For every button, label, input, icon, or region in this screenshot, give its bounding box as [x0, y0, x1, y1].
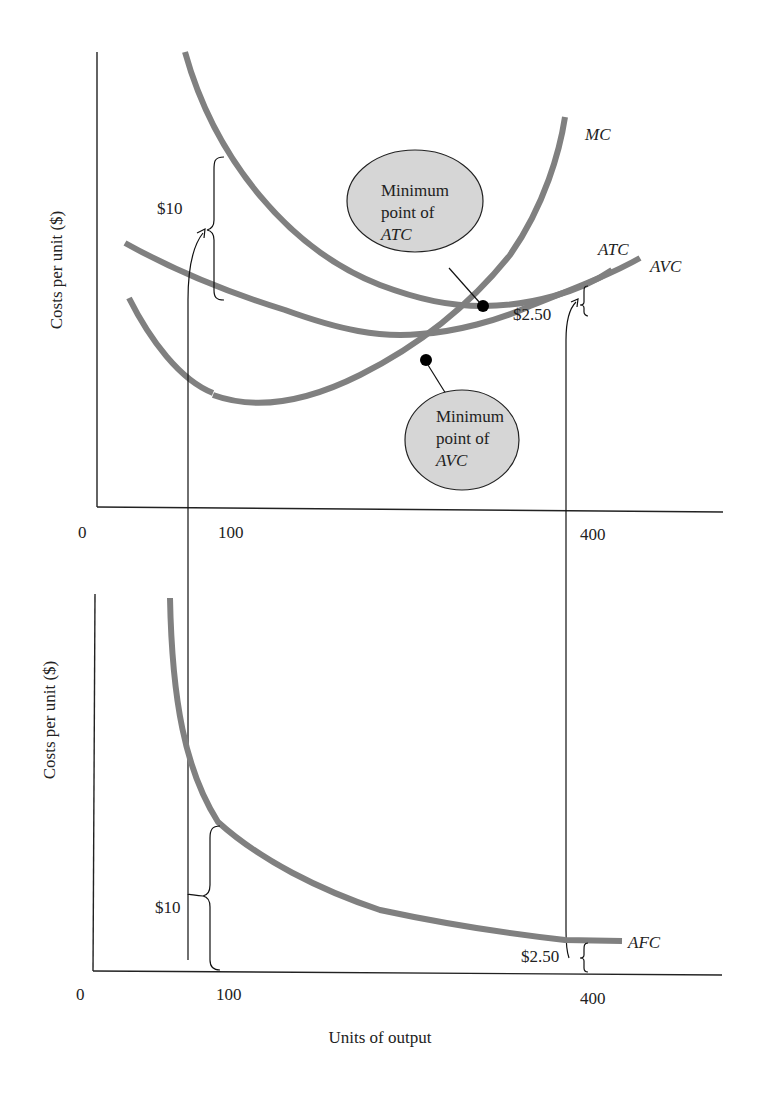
- bottom-brace-2-50-label: $2.50: [521, 947, 559, 966]
- top-x-tick-100: 100: [218, 523, 244, 542]
- min-atc-line2: point of: [381, 203, 435, 222]
- top-x-axis: [97, 507, 723, 512]
- top-brace-10-label: $10: [157, 199, 183, 218]
- top-x-tick-400: 400: [580, 525, 606, 544]
- top-y-axis-label: Costs per unit ($): [47, 211, 66, 330]
- top-panel: Costs per unit ($) 0 100 400 Minimum poi…: [47, 52, 723, 544]
- bottom-brace-10-label: $10: [155, 898, 181, 917]
- avc-label: AVC: [649, 257, 682, 276]
- min-atc-line1: Minimum: [381, 181, 449, 200]
- bottom-brace-2-50: [580, 943, 588, 972]
- bottom-panel: Costs per unit ($) 0 100 400 Units of ou…: [40, 594, 722, 1047]
- bottom-y-axis-label: Costs per unit ($): [40, 661, 59, 780]
- bottom-x-tick-400: 400: [580, 989, 606, 1008]
- afc-label: AFC: [627, 933, 661, 952]
- connector-arrow-400: [566, 302, 576, 958]
- min-atc-line3: ATC: [380, 225, 412, 244]
- connector-arrow-100: [188, 233, 203, 960]
- atc-label: ATC: [597, 240, 629, 259]
- top-brace-2-50: [580, 286, 588, 316]
- min-avc-line2: point of: [436, 429, 490, 448]
- bottom-brace-10: [203, 826, 220, 970]
- top-brace-2-50-label: $2.50: [513, 305, 551, 324]
- bottom-brace-10-connector: [188, 894, 203, 896]
- bottom-y-axis: [93, 594, 95, 971]
- min-atc-bubble: [347, 150, 483, 252]
- bottom-x-axis: [93, 971, 722, 975]
- top-brace-10: [207, 157, 224, 300]
- mc-label: MC: [584, 125, 611, 144]
- afc-curve: [170, 598, 622, 941]
- bottom-x-axis-label: Units of output: [329, 1028, 432, 1047]
- min-avc-line1: Minimum: [436, 407, 504, 426]
- min-avc-leader: [428, 365, 446, 394]
- min-atc-leader: [449, 268, 480, 303]
- cost-curves-diagram: Costs per unit ($) 0 100 400 Minimum poi…: [0, 0, 760, 1099]
- min-avc-point: [420, 354, 432, 366]
- top-x-tick-0: 0: [78, 523, 87, 542]
- bottom-x-tick-0: 0: [76, 985, 85, 1004]
- min-avc-line3: AVC: [435, 451, 468, 470]
- bottom-x-tick-100: 100: [216, 985, 242, 1004]
- mc-curve-lower: [129, 298, 213, 393]
